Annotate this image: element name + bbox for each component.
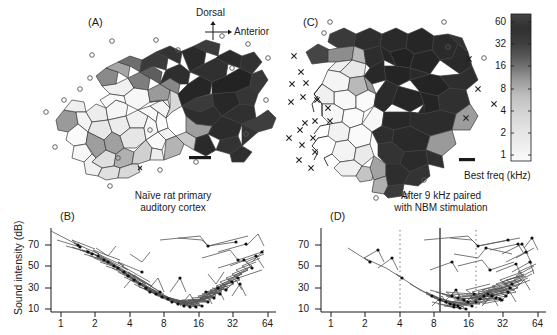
panel-d-xtick-2: 2 bbox=[362, 318, 368, 329]
panel-c-scale-bar bbox=[459, 158, 475, 161]
panel-d-ytick-30: 30 bbox=[298, 282, 309, 293]
figure-root: (A) (B) (C) (D) Dorsal Anterior 60 32 16… bbox=[0, 0, 557, 335]
panel-b-title: Naïve rat primary auditory cortex bbox=[93, 190, 253, 214]
panel-c-cells bbox=[306, 28, 478, 198]
panel-b-curves bbox=[51, 231, 264, 307]
colorbar-caption: Best freq (kHz) bbox=[464, 170, 531, 181]
panel-label-d: (D) bbox=[330, 210, 345, 222]
panel-d-xtick-4: 4 bbox=[397, 318, 403, 329]
panel-d-title-line1: After 9 kHz paired bbox=[356, 190, 526, 202]
panel-d-axes bbox=[315, 228, 546, 317]
panel-b-title-line2: auditory cortex bbox=[93, 202, 253, 214]
colorbar-tick-1: 1 bbox=[484, 149, 506, 160]
y-axis-label: Sound intensity (dB) bbox=[12, 220, 24, 315]
panel-d-xtick-64: 64 bbox=[532, 318, 543, 329]
panel-b-ytick-10: 10 bbox=[28, 303, 39, 314]
panel-b-xtick-1: 1 bbox=[58, 318, 64, 329]
panel-d-xtick-16: 16 bbox=[463, 318, 474, 329]
panel-d-curves bbox=[348, 236, 538, 309]
colorbar bbox=[511, 14, 531, 161]
orientation-indicator bbox=[205, 21, 232, 40]
panel-b-ytick-30: 30 bbox=[28, 282, 39, 293]
panel-b-xtick-8: 8 bbox=[161, 318, 167, 329]
panel-d-xtick-8: 8 bbox=[431, 318, 437, 329]
figure-canvas bbox=[0, 0, 557, 335]
panel-b-ytick-70: 70 bbox=[28, 239, 39, 250]
panel-d-ytick-50: 50 bbox=[298, 260, 309, 271]
colorbar-tick-8: 8 bbox=[484, 83, 506, 94]
panel-b-tuning-curves bbox=[45, 228, 276, 317]
panel-b-xtick-16: 16 bbox=[193, 318, 204, 329]
colorbar-tick-4: 4 bbox=[484, 105, 506, 116]
panel-label-a: (A) bbox=[88, 16, 103, 28]
panel-label-c: (C) bbox=[303, 16, 318, 28]
panel-b-title-line1: Naïve rat primary bbox=[93, 190, 253, 202]
panel-label-b: (B) bbox=[60, 210, 75, 222]
panel-b-xtick-64: 64 bbox=[262, 318, 273, 329]
panel-d-title: After 9 kHz paired with NBM stimulation bbox=[356, 190, 526, 214]
panel-a-scale-bar bbox=[189, 156, 211, 159]
panel-d-ytick-70: 70 bbox=[298, 239, 309, 250]
panel-d-title-line2: with NBM stimulation bbox=[356, 202, 526, 214]
anterior-label: Anterior bbox=[234, 26, 269, 37]
panel-d-ytick-10: 10 bbox=[298, 303, 309, 314]
panel-b-xtick-32: 32 bbox=[227, 318, 238, 329]
panel-b-ytick-50: 50 bbox=[28, 260, 39, 271]
panel-d-bf-points bbox=[368, 236, 533, 310]
panel-b-xtick-2: 2 bbox=[92, 318, 98, 329]
colorbar-tick-2: 2 bbox=[484, 127, 506, 138]
dorsal-label: Dorsal bbox=[196, 7, 225, 18]
panel-d-xtick-1: 1 bbox=[328, 318, 334, 329]
colorbar-tick-32: 32 bbox=[484, 38, 506, 49]
panel-d-xtick-32: 32 bbox=[497, 318, 508, 329]
colorbar-tick-16: 16 bbox=[484, 60, 506, 71]
panel-d-tuning-curves bbox=[315, 228, 546, 317]
panel-a-cells bbox=[56, 40, 276, 180]
panel-a-voronoi-map bbox=[44, 34, 276, 189]
panel-b-xtick-4: 4 bbox=[127, 318, 133, 329]
colorbar-tick-60: 60 bbox=[484, 16, 506, 27]
